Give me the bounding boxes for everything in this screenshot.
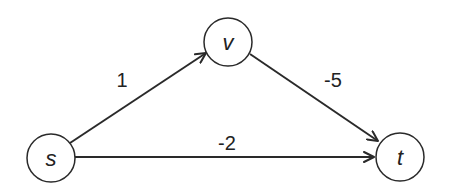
graph-svg: 1 -5 -2 s v t — [0, 0, 450, 190]
edge-label-v-t: -5 — [324, 69, 342, 91]
edge-label-s-v: 1 — [116, 69, 127, 91]
edge-label-s-t: -2 — [218, 132, 236, 154]
edge-v-t — [250, 54, 378, 141]
node-v: v — [204, 18, 252, 66]
graph-diagram: 1 -5 -2 s v t — [0, 0, 450, 190]
node-s-label: s — [46, 146, 57, 171]
edge-s-v — [70, 53, 206, 143]
node-t: t — [376, 133, 424, 181]
node-t-label: t — [397, 145, 404, 170]
node-s: s — [27, 134, 75, 182]
